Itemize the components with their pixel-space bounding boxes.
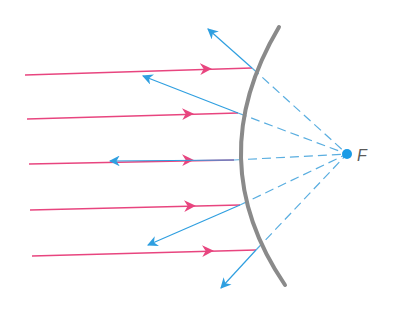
virtual-extension bbox=[238, 113, 347, 154]
virtual-extension bbox=[234, 154, 347, 160]
virtual-extension bbox=[256, 154, 347, 250]
incident-ray bbox=[27, 113, 238, 119]
convex-mirror-diagram: F bbox=[0, 0, 394, 311]
virtual-extension bbox=[240, 154, 347, 205]
incident-ray bbox=[32, 250, 256, 256]
reflected-rays bbox=[110, 29, 256, 288]
focal-point-label: F bbox=[357, 147, 368, 164]
reflected-ray bbox=[221, 250, 256, 288]
focal-point-marker bbox=[342, 149, 352, 159]
virtual-extension bbox=[252, 68, 347, 154]
reflected-ray bbox=[143, 76, 238, 113]
reflected-ray bbox=[208, 29, 252, 68]
incident-ray bbox=[25, 68, 252, 75]
reflected-ray bbox=[148, 205, 240, 245]
convex-mirror bbox=[241, 27, 285, 285]
incident-rays bbox=[25, 68, 256, 256]
incident-ray bbox=[30, 205, 240, 210]
